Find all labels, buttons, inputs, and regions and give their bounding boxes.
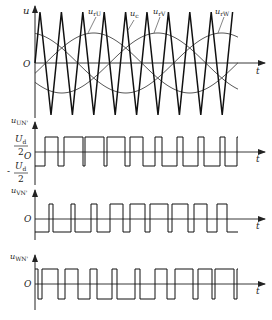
x-axis-label: t: [256, 221, 260, 231]
label-u-rW: urW: [215, 7, 230, 33]
y-axis-label: uWN': [10, 252, 29, 262]
svg-text:urU: urU: [88, 7, 101, 17]
y-axis-label: uUN': [11, 116, 28, 126]
x-axis-label: t: [256, 154, 260, 164]
svg-text:Ud: Ud: [15, 134, 27, 145]
y-axis-label: u: [23, 5, 29, 16]
origin-label: O: [24, 151, 32, 161]
svg-text:uc: uc: [130, 9, 139, 19]
label-u-rU: urU: [88, 7, 101, 33]
panel-u-vn: uVN' O t: [11, 186, 265, 240]
origin-label: O: [24, 279, 32, 289]
spwm-waveform-diagram: u O t urU uc urV urW uUN' Ud 2 O: [0, 0, 272, 320]
svg-text:2: 2: [18, 147, 24, 157]
x-axis-label: t: [256, 66, 260, 76]
svg-text:urW: urW: [215, 7, 230, 17]
panel-u-un: uUN' Ud 2 O - Ud 2 t: [7, 116, 265, 185]
waveform-u-un: [35, 137, 238, 166]
svg-text:-: -: [7, 166, 10, 176]
svg-text:Ud: Ud: [15, 161, 27, 172]
origin-label: O: [24, 214, 32, 224]
waveform-u-vn: [35, 204, 238, 232]
panel-u-wn: uWN' O t: [10, 252, 265, 310]
triangular-carrier: [35, 12, 233, 115]
svg-text:urV: urV: [153, 7, 166, 17]
svg-text:2: 2: [18, 174, 24, 184]
x-axis-label: t: [256, 286, 260, 296]
label-u-c: uc: [128, 9, 139, 30]
y-axis-label: uVN': [11, 186, 28, 196]
panel-carrier-reference: u O t urU uc urV urW: [23, 5, 265, 118]
origin-label: O: [23, 59, 31, 69]
label-u-rV: urV: [153, 7, 166, 33]
level-low-label: - Ud 2: [7, 161, 28, 184]
